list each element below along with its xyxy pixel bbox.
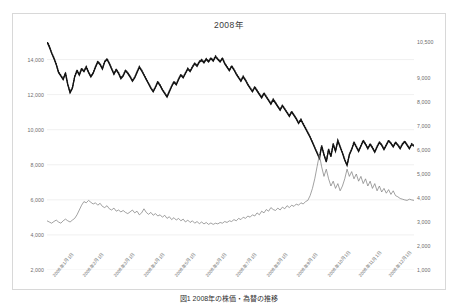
series-line: [47, 155, 414, 225]
y-axis-right-tick: 2,000: [417, 243, 430, 249]
y-axis-right-tick: 3,000: [417, 219, 430, 225]
y-axis-right-tick: 5,000: [417, 171, 430, 177]
y-axis-left: 2,0004,0006,0008,00010,00012,00014,000: [13, 42, 44, 270]
y-axis-left-tick: 2,000: [31, 267, 44, 273]
y-axis-left-tick: 8,000: [31, 162, 44, 168]
y-axis-left-tick: 10,000: [28, 127, 44, 133]
y-axis-left-tick: 14,000: [28, 57, 44, 63]
y-axis-right: 1,0002,0003,0004,0005,0006,0007,0008,000…: [417, 42, 451, 270]
y-axis-right-tick: 8,000: [417, 99, 430, 105]
y-axis-right-tick: 10,500: [417, 39, 433, 45]
y-axis-right-tick: 6,000: [417, 147, 430, 153]
gridlines: [47, 60, 414, 270]
data-series-layer: [47, 42, 414, 224]
chart-title: 2008年: [13, 18, 445, 30]
y-axis-left-tick: 6,000: [31, 197, 44, 203]
series-line: [47, 42, 414, 165]
y-axis-right-tick: 9,000: [417, 75, 430, 81]
figure-caption: 図1 2008年の株価・為替の推移: [0, 293, 458, 303]
y-axis-right-tick: 7,000: [417, 123, 430, 129]
y-axis-left-tick: 12,000: [28, 92, 44, 98]
chart-screenshot: 2008年 2,0004,0006,0008,00010,00012,00014…: [0, 0, 458, 305]
series-line: [47, 42, 414, 166]
chart-frame: 2008年 2,0004,0006,0008,00010,00012,00014…: [12, 13, 446, 290]
series-canvas: [47, 42, 414, 270]
y-axis-right-tick: 1,000: [417, 267, 430, 273]
y-axis-right-tick: 4,000: [417, 195, 430, 201]
y-axis-left-tick: 4,000: [31, 232, 44, 238]
plot-area: [47, 42, 414, 270]
